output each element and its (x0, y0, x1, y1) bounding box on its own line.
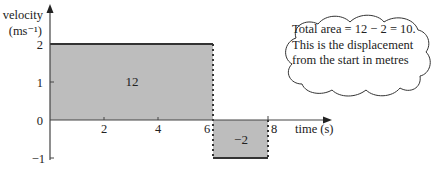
x-tick-label: 4 (155, 122, 162, 136)
callout-line: from the start in metres (292, 53, 422, 69)
area-label-positive: 12 (126, 74, 139, 89)
y-tick-label: 2 (37, 38, 43, 52)
callout-text: Total area = 12 − 2 = 10. This is the di… (292, 22, 422, 69)
y-axis-arrow-icon (47, 4, 54, 13)
x-axis-label: time (s) (295, 122, 334, 136)
callout-line: This is the displacement (292, 38, 422, 54)
callout-line: Total area = 12 − 2 = 10. (292, 22, 422, 38)
x-tick-label: 2 (101, 122, 107, 136)
y-axis-label-line1: velocity (3, 8, 44, 22)
y-tick-label: 0 (37, 114, 43, 128)
x-tick-label: 6 (204, 122, 210, 136)
area-label-negative: −2 (234, 132, 248, 147)
x-tick-label: 8 (271, 122, 277, 136)
y-tick-label: 1 (37, 76, 43, 90)
y-axis-label-line2: (ms⁻¹) (9, 24, 42, 38)
y-tick-label: −1 (32, 152, 45, 166)
